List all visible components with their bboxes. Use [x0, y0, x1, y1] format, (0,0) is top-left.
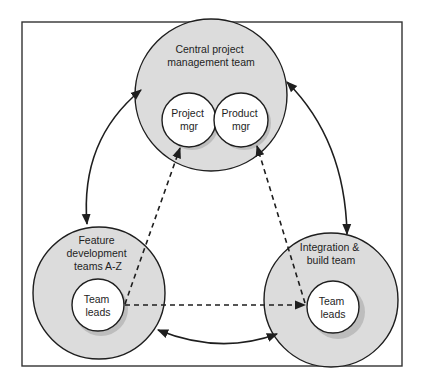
central-pm-team-label: Central project management team	[167, 43, 255, 68]
feature-teams-node: Feature development teams A-Z Team leads	[33, 227, 165, 359]
integration-team-leads-circle	[307, 281, 359, 333]
integration-team-label: Integration & build team	[300, 241, 362, 266]
feature-team-leads-circle	[72, 279, 124, 331]
integration-team-leads-label: Team leads	[319, 295, 348, 320]
feature-team-leads-label: Team leads	[84, 293, 113, 318]
integration-team-node: Integration & build team Team leads	[264, 233, 398, 367]
central-pm-team-circle	[135, 19, 287, 171]
diagram-canvas: Central project management team Project …	[0, 0, 422, 381]
central-pm-team-node: Central project management team Project …	[135, 19, 287, 171]
